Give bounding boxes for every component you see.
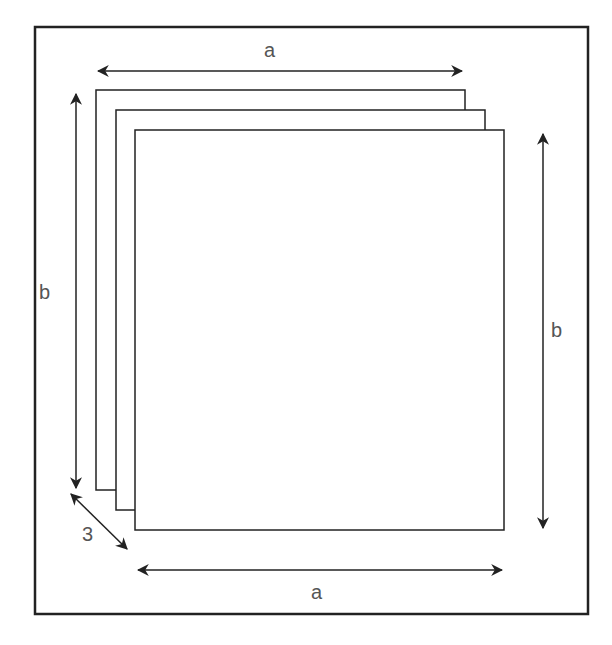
sheet-3 bbox=[135, 130, 504, 530]
top-width-label: a bbox=[264, 39, 276, 61]
bottom-width-label: a bbox=[311, 581, 323, 603]
depth-label: 3 bbox=[82, 523, 93, 545]
right-height-label: b bbox=[551, 319, 562, 341]
stacked-sheets-diagram: a b b a 3 bbox=[0, 0, 612, 645]
left-height-label: b bbox=[39, 281, 50, 303]
